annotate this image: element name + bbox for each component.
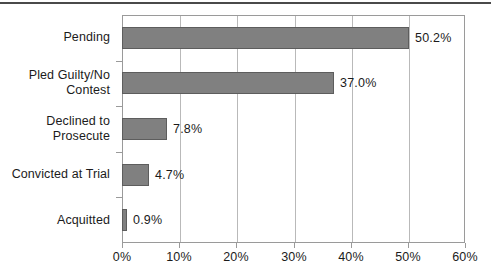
- bar-convicted-at-trial: [122, 164, 149, 186]
- x-axis-tick-label: 20%: [223, 250, 249, 264]
- y-axis-label-acquitted: Acquitted: [0, 197, 116, 243]
- x-axis-tick-label: 50%: [395, 250, 421, 264]
- bar-row: 4.7%: [122, 152, 465, 198]
- bar-value-label: 4.7%: [155, 168, 184, 182]
- y-axis-tick: [116, 152, 122, 153]
- y-axis-tick: [116, 61, 122, 62]
- page-top-rule: [0, 2, 491, 4]
- x-axis-tick-30pct: [294, 243, 295, 248]
- bar-row: 50.2%: [122, 15, 465, 61]
- bar-pending: [122, 27, 409, 49]
- x-axis-tick-40pct: [351, 243, 352, 248]
- y-axis-category-labels: PendingPled Guilty/NoContestDeclined toP…: [0, 15, 116, 243]
- x-axis-tick-label: 40%: [338, 250, 364, 264]
- y-axis-label-text: Pled Guilty/NoContest: [29, 68, 110, 98]
- bar-value-label: 50.2%: [415, 31, 451, 45]
- y-axis-label-text: Convicted at Trial: [12, 167, 110, 182]
- y-axis-tick: [116, 106, 122, 107]
- x-axis-tick-label: 60%: [452, 250, 478, 264]
- x-axis-tick-50pct: [408, 243, 409, 248]
- x-axis-tick-label: 0%: [113, 250, 131, 264]
- y-axis-tick: [116, 197, 122, 198]
- x-axis-tick-0pct: [122, 243, 123, 248]
- bar-pled-guilty-no-contest: [122, 72, 334, 94]
- bar-value-label: 7.8%: [173, 122, 202, 136]
- y-axis-label-pled-guilty-no-contest: Pled Guilty/NoContest: [0, 61, 116, 107]
- x-axis-tick-60pct: [465, 243, 466, 248]
- x-axis-tick-label: 30%: [281, 250, 307, 264]
- x-axis-tick-10pct: [179, 243, 180, 248]
- x-axis-tick-label: 10%: [166, 250, 192, 264]
- y-axis-label-declined-to-prosecute: Declined toProsecute: [0, 106, 116, 152]
- y-axis-label-text: Declined toProsecute: [46, 114, 110, 144]
- y-axis-label-text: Pending: [63, 30, 110, 45]
- bar-declined-to-prosecute: [122, 118, 167, 140]
- y-axis-label-convicted-at-trial: Convicted at Trial: [0, 152, 116, 198]
- bar-row: 7.8%: [122, 106, 465, 152]
- y-axis-label-pending: Pending: [0, 15, 116, 61]
- bar-chart-figure: PendingPled Guilty/NoContestDeclined toP…: [0, 0, 491, 269]
- x-axis-tick-20pct: [236, 243, 237, 248]
- bar-row: 37.0%: [122, 61, 465, 107]
- bars-layer: 50.2%37.0%7.8%4.7%0.9%: [122, 15, 465, 243]
- bar-row: 0.9%: [122, 197, 465, 243]
- bar-value-label: 37.0%: [340, 76, 376, 90]
- bar-value-label: 0.9%: [133, 213, 162, 227]
- y-axis-label-text: Acquitted: [57, 213, 110, 228]
- bar-acquitted: [122, 209, 127, 231]
